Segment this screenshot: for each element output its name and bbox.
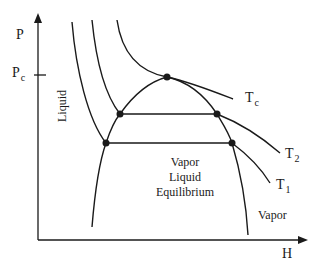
- t1-main: T: [276, 177, 285, 192]
- y-axis-label: P: [16, 28, 24, 42]
- t1-bubble-point: [103, 140, 110, 147]
- liquid-region-label: Liquid: [56, 90, 68, 122]
- t1-label: T1: [276, 178, 291, 192]
- x-axis-label: H: [282, 247, 292, 261]
- t2-main: T: [285, 146, 294, 161]
- tc-main: T: [245, 90, 254, 105]
- t1-sub: 1: [286, 184, 291, 195]
- y-axis-arrow-icon: [34, 13, 42, 23]
- vle-line1: Vapor: [145, 155, 225, 170]
- x-axis-arrow-icon: [298, 236, 308, 244]
- axes: [34, 20, 300, 240]
- vle-line3: Equilibrium: [145, 185, 225, 200]
- tc-label: Tc: [245, 91, 259, 105]
- t2-bubble-point: [117, 111, 124, 118]
- pc-sub: c: [21, 72, 25, 83]
- isotherm-tc: [117, 20, 233, 99]
- pc-label: Pc: [12, 66, 25, 80]
- t2-dew-point: [214, 111, 221, 118]
- t2-label: T2: [285, 147, 300, 161]
- vle-line2: Liquid: [145, 170, 225, 185]
- t2-sub: 2: [295, 153, 300, 164]
- isotherm-t2: [92, 20, 280, 153]
- tc-sub: c: [255, 97, 259, 108]
- vle-region-label: Vapor Liquid Equilibrium: [145, 155, 225, 200]
- phase-diagram-canvas: [0, 0, 316, 270]
- t1-dew-point: [229, 140, 236, 147]
- pc-main: P: [12, 65, 20, 80]
- critical-point: [164, 74, 171, 81]
- vapor-region-label: Vapor: [258, 208, 287, 223]
